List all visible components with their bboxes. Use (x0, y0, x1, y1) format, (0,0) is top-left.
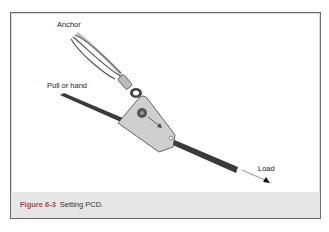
caption-band: Figure 6-3Setting PCD. (11, 192, 320, 218)
figure-caption-text: Setting PCD. (60, 200, 103, 209)
figure-caption: Figure 6-3Setting PCD. (20, 200, 103, 209)
label-pull-or-hand: Pull or hand (47, 81, 87, 90)
pcd-device (118, 96, 175, 152)
figure-number: Figure 6-3 (20, 200, 56, 209)
label-anchor: Anchor (57, 20, 81, 29)
figure-illustration: Anchor Pull or hand Load (11, 13, 320, 192)
figure-frame: Anchor Pull or hand Load Figure 6-3Setti… (10, 12, 321, 219)
label-load: Load (258, 164, 275, 173)
